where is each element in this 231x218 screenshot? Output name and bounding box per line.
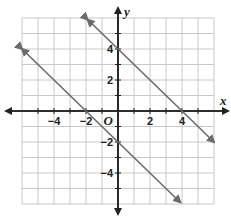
coordinate-plane: −4−22442−2−4Oyx [0,0,231,218]
line-lower [22,49,180,202]
tick-labels: −4−22442−2−4Oyx [48,4,227,179]
x-tick-label: −4 [48,115,61,127]
y-axis-label: y [122,4,130,19]
x-tick-label: 2 [147,115,153,127]
x-tick-label: 4 [179,115,186,127]
axes [6,8,228,214]
x-tick-label: −2 [80,115,93,127]
y-tick-label: 2 [107,74,113,86]
x-axis-label: x [219,93,227,108]
y-tick-label: −4 [100,167,113,179]
origin-label: O [104,113,114,128]
y-tick-label: −2 [100,136,113,148]
y-tick-label: 4 [107,43,114,55]
